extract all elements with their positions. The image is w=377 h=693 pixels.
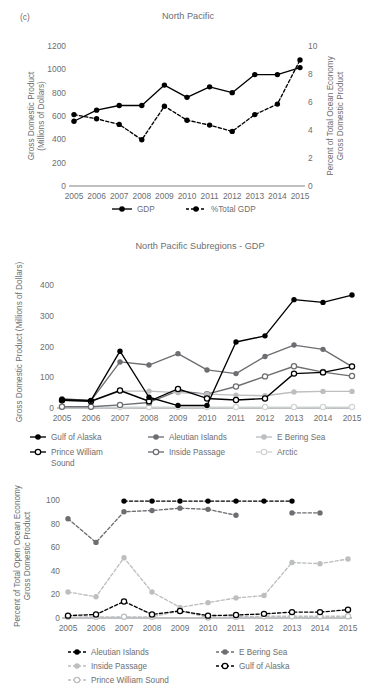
subregions-percent-marker	[345, 614, 350, 619]
subregions-gdp-marker	[320, 347, 325, 352]
subregions-gdp-marker	[262, 404, 267, 409]
x-axis-tick-label: 2008	[140, 413, 159, 423]
subregions-percent-marker	[149, 508, 154, 513]
subregions-gdp-marker	[233, 384, 238, 389]
north-pacific-marker	[94, 107, 99, 112]
subregions-percent-marker	[177, 505, 182, 510]
legend-item-aleutian-islands[interactable]: Aleutian Islands	[91, 648, 149, 657]
subregions-gdp-marker	[320, 370, 325, 375]
subregions-gdp-marker	[233, 397, 238, 402]
x-axis-tick-label: 2012	[256, 413, 275, 423]
subregions-gdp-marker	[233, 339, 238, 344]
north-pacific-marker	[162, 104, 167, 109]
x-axis-tick-label: 2005	[59, 623, 78, 633]
north-pacific-marker	[230, 129, 235, 134]
north-pacific-gdp-chart: (c)North Pacific020040060080010001200024…	[0, 0, 377, 228]
subregions-percent-marker	[345, 607, 350, 612]
legend-item-aleutian-islands[interactable]: Aleutian Islands	[169, 433, 227, 442]
legend-marker-filled-circle-icon	[119, 206, 125, 212]
legend-item-inside-passage[interactable]: Inside Passage	[169, 448, 225, 457]
y2-axis-tick-label: 0	[308, 181, 313, 191]
north-pacific-marker	[297, 65, 302, 70]
north-pacific-marker	[117, 103, 122, 108]
north-pacific-line-gdp	[74, 68, 300, 122]
subregions-percent-marker	[233, 595, 238, 600]
legend-marker-open-circle-icon	[153, 449, 158, 454]
subregions-percent-marker	[149, 612, 154, 617]
legend-item-gulf-of-alaska[interactable]: Gulf of Alaska	[239, 662, 290, 671]
subregions-gdp-marker	[88, 398, 93, 403]
subregions-percent-marker	[121, 555, 126, 560]
subregions-percent-marker	[205, 600, 210, 605]
legend-item-inside-passage[interactable]: Inside Passage	[91, 662, 147, 671]
subregions-percent-marker	[289, 610, 294, 615]
north-pacific-marker	[275, 72, 280, 77]
legend-item-prince-william-sound[interactable]: Prince William Sound	[91, 676, 169, 685]
y2-axis-tick-label: 8	[308, 69, 313, 79]
y2-axis-title-line2: Gross Domestic Product	[336, 71, 345, 160]
legend-item-e-bering-sea[interactable]: E Bering Sea	[277, 433, 326, 442]
subregions-percent-marker	[177, 498, 182, 503]
subregions-percent-marker	[205, 498, 210, 503]
x-axis-tick-label: 2015	[339, 623, 358, 633]
subregions-gdp-marker	[291, 404, 296, 409]
legend-marker-filled-circle-icon	[74, 649, 80, 655]
subregions-percent-marker	[205, 507, 210, 512]
subregions-gdp-marker	[233, 371, 238, 376]
y-axis-tick-label: 300	[40, 311, 54, 321]
x-axis-tick-label: 2013	[285, 413, 304, 423]
subregions-percent-marker	[317, 610, 322, 615]
chart-title: North Pacific Subregions - GDP	[135, 241, 264, 251]
y-axis-tick-label: 0	[55, 613, 60, 623]
subregions-percent-marker	[205, 613, 210, 618]
x-axis-tick-label: 2010	[198, 413, 217, 423]
x-axis-tick-label: 2005	[65, 191, 84, 201]
north-pacific-marker	[207, 84, 212, 89]
legend-marker-filled-circle-icon	[35, 434, 41, 440]
legend-item-arctic[interactable]: Arctic	[277, 448, 297, 457]
subregions-gdp-marker	[175, 386, 180, 391]
legend-item-gulf-of-alaska[interactable]: Gulf of Alaska	[51, 433, 102, 442]
subregions-percent-marker	[233, 612, 238, 617]
subregions-gdp-marker	[349, 389, 354, 394]
north-pacific-subregions-gdp-chart: North Pacific Subregions - GDP0100200300…	[0, 228, 377, 472]
x-axis-tick-label: 2012	[223, 191, 242, 201]
subregions-percent-marker	[261, 611, 266, 616]
legend-marker-filled-circle-icon	[193, 206, 199, 212]
north-pacific-marker	[139, 137, 144, 142]
x-axis-tick-label: 2007	[115, 623, 134, 633]
subregions-gdp-marker	[320, 404, 325, 409]
subregions-percent-marker	[177, 608, 182, 613]
legend-item-percent-total-gdp[interactable]: %Total GDP	[211, 205, 256, 214]
north-pacific-marker	[71, 112, 76, 117]
y-axis-tick-label: 60	[51, 542, 61, 552]
x-axis-tick-label: 2015	[343, 413, 362, 423]
y-axis-tick-label: 0	[49, 403, 54, 413]
north-pacific-marker	[207, 122, 212, 127]
legend-marker-open-circle-icon	[74, 677, 79, 682]
panel-label: (c)	[20, 12, 30, 22]
north-pacific-marker	[184, 118, 189, 123]
legend-marker-filled-circle-icon	[222, 649, 228, 655]
subregions-gdp-marker	[291, 364, 296, 369]
y-axis-tick-label: 600	[52, 111, 66, 121]
legend-marker-open-circle-icon	[261, 449, 266, 454]
legend-marker-open-circle-icon	[35, 449, 40, 454]
subregions-gdp-marker	[88, 404, 93, 409]
subregions-gdp-marker	[146, 362, 151, 367]
subregions-percent-marker	[289, 498, 294, 503]
y2-axis-tick-label: 4	[308, 125, 313, 135]
legend-marker-filled-circle-icon	[74, 663, 80, 669]
legend-item-e-bering-sea[interactable]: E Bering Sea	[239, 648, 288, 657]
x-axis-tick-label: 2006	[87, 191, 106, 201]
legend-item-gdp[interactable]: GDP	[137, 205, 155, 214]
legend-item-prince-william-line2[interactable]: Sound	[51, 459, 75, 468]
y2-axis-tick-label: 10	[308, 41, 318, 51]
subregions-gdp-marker	[262, 374, 267, 379]
y2-axis-title: Percent of Total Ocean Economy	[326, 55, 335, 175]
subregions-percent-marker	[317, 510, 322, 515]
y-axis-tick-label: 400	[40, 280, 54, 290]
subregions-gdp-marker	[320, 300, 325, 305]
legend-item-prince-william[interactable]: Prince William	[51, 448, 103, 457]
subregions-percent-line-inside-passage	[68, 558, 348, 608]
